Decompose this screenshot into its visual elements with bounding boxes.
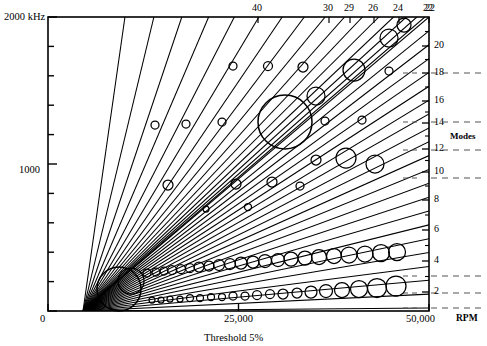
y-axis-zero-label: 0 [40, 314, 45, 325]
response-circle [151, 121, 159, 129]
order-line [83, 45, 429, 311]
response-circle [267, 177, 277, 187]
x-axis-mid-label: 25,000 [224, 314, 253, 325]
top-tick-label: 30 [323, 3, 333, 13]
response-circle [351, 281, 368, 298]
response-circle [245, 204, 252, 211]
response-circle [327, 249, 342, 264]
order-line [83, 183, 429, 311]
y-axis-mid-label: 1000 [19, 165, 40, 176]
response-circle [229, 62, 237, 70]
right-tick-label: 10 [434, 166, 444, 176]
right-tick-label: 14 [434, 117, 444, 127]
response-circle [368, 279, 387, 298]
response-circle [373, 245, 390, 262]
response-circle [305, 286, 317, 298]
right-tick-label: 6 [434, 224, 439, 234]
top-tick-label: 26 [368, 3, 378, 13]
right-tick-label: 12 [434, 143, 444, 153]
response-circle [321, 117, 329, 125]
response-circle [229, 292, 237, 300]
order-line [83, 17, 406, 311]
modes-axis-title: Modes [450, 132, 476, 141]
right-tick-label: 2 [434, 286, 439, 296]
response-circle [397, 18, 411, 32]
right-tick-label: 16 [434, 95, 444, 105]
response-circle [386, 276, 406, 296]
x-axis-unit-label: RPM [456, 314, 478, 324]
chart-caption: Threshold 5% [204, 333, 263, 344]
y-axis-top-label: 2000 kHz [4, 12, 45, 23]
order-line [83, 17, 282, 311]
order-line [83, 17, 363, 311]
campbell-diagram-figure: 2000 kHz 1000 0 25,000 50,000 RPM Thresh… [0, 0, 487, 346]
order-line [83, 100, 429, 311]
response-circle [357, 246, 373, 262]
response-circle [182, 120, 190, 128]
response-circle [335, 283, 350, 298]
response-circle [385, 67, 393, 75]
response-circle [366, 155, 384, 173]
order-line [83, 17, 425, 311]
right-tick-label: 22 [425, 3, 435, 13]
order-line [83, 17, 234, 311]
order-line [83, 17, 259, 311]
response-circle [219, 294, 226, 301]
order-line [83, 86, 429, 311]
response-circle [272, 254, 285, 267]
response-circle [292, 288, 302, 298]
right-tick-label: 4 [434, 255, 439, 265]
response-circle [258, 95, 312, 149]
chart-canvas [0, 0, 487, 346]
response-circle [177, 265, 186, 274]
top-tick-label: 29 [344, 3, 354, 13]
order-line [83, 156, 429, 311]
response-circle [298, 251, 312, 265]
top-tick-label: 40 [252, 3, 262, 13]
right-tick-label: 8 [434, 194, 439, 204]
x-axis-max-label: 50,000 [406, 314, 435, 325]
top-tick-label: 24 [393, 3, 403, 13]
order-line [83, 17, 379, 311]
right-tick-label: 20 [434, 40, 444, 50]
y-axis-ticks [48, 17, 57, 311]
response-circle [320, 285, 333, 298]
right-tick-label: 18 [434, 67, 444, 77]
